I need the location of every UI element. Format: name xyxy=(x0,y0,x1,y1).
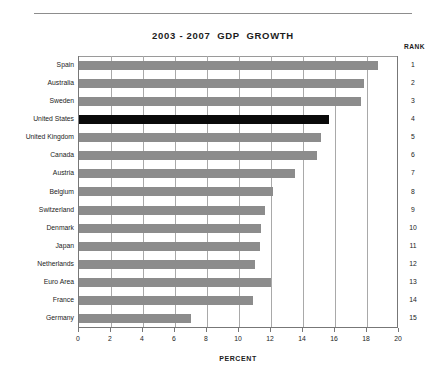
x-tick xyxy=(398,328,399,332)
bar-highlighted[interactable] xyxy=(79,115,329,124)
category-label: France xyxy=(0,297,74,304)
x-tick-label: 20 xyxy=(386,336,410,343)
bar[interactable] xyxy=(79,278,271,287)
rank-values: 123456789101112131415 xyxy=(404,56,434,328)
rank-label: 14 xyxy=(404,297,422,304)
rank-label: 15 xyxy=(404,315,422,322)
bar-row[interactable] xyxy=(79,237,397,255)
bar-row[interactable] xyxy=(79,183,397,201)
category-label: Netherlands xyxy=(0,261,74,268)
rank-label: 4 xyxy=(404,116,422,123)
x-axis-tick-labels: 02468101214161820 xyxy=(0,336,446,348)
x-tick xyxy=(238,328,239,332)
chart-title: 2003 - 2007 GDP GROWTH xyxy=(0,30,446,41)
category-label: Spain xyxy=(0,62,74,69)
plot-area xyxy=(78,56,398,328)
rank-label: 5 xyxy=(404,134,422,141)
x-tick-label: 14 xyxy=(290,336,314,343)
bar-row[interactable] xyxy=(79,219,397,237)
bar[interactable] xyxy=(79,79,364,88)
rank-label: 11 xyxy=(404,243,422,250)
x-tick-label: 8 xyxy=(194,336,218,343)
category-label: Austria xyxy=(0,170,74,177)
rank-label: 10 xyxy=(404,225,422,232)
category-label: Belgium xyxy=(0,189,74,196)
x-tick xyxy=(206,328,207,332)
rank-label: 3 xyxy=(404,98,422,105)
bar-row[interactable] xyxy=(79,292,397,310)
bar[interactable] xyxy=(79,314,191,323)
category-label: Denmark xyxy=(0,225,74,232)
rank-label: 9 xyxy=(404,207,422,214)
bar[interactable] xyxy=(79,260,255,269)
bar-row[interactable] xyxy=(79,165,397,183)
x-tick-label: 6 xyxy=(162,336,186,343)
rank-label: 2 xyxy=(404,80,422,87)
category-label: Euro Area xyxy=(0,279,74,286)
bar-row[interactable] xyxy=(79,74,397,92)
top-divider-rule xyxy=(34,13,412,14)
rank-label: 1 xyxy=(404,62,422,69)
x-tick-label: 12 xyxy=(258,336,282,343)
x-tick-label: 18 xyxy=(354,336,378,343)
bar-row[interactable] xyxy=(79,310,397,328)
x-tick xyxy=(334,328,335,332)
x-tick-label: 2 xyxy=(98,336,122,343)
bar-row[interactable] xyxy=(79,274,397,292)
bar[interactable] xyxy=(79,151,317,160)
x-tick xyxy=(78,328,79,332)
category-label: Sweden xyxy=(0,98,74,105)
x-tick xyxy=(110,328,111,332)
category-label: Canada xyxy=(0,152,74,159)
category-label: Japan xyxy=(0,243,74,250)
rank-label: 12 xyxy=(404,261,422,268)
bar[interactable] xyxy=(79,133,321,142)
x-axis-ticks xyxy=(78,328,398,334)
rank-label: 8 xyxy=(404,189,422,196)
category-label: United States xyxy=(0,116,74,123)
bar[interactable] xyxy=(79,61,378,70)
bar-rows xyxy=(79,56,397,327)
x-tick xyxy=(174,328,175,332)
category-label: Germany xyxy=(0,315,74,322)
bar-row[interactable] xyxy=(79,201,397,219)
x-tick-label: 16 xyxy=(322,336,346,343)
bar[interactable] xyxy=(79,187,273,196)
category-axis-labels: SpainAustraliaSwedenUnited StatesUnited … xyxy=(0,56,74,328)
bar-row[interactable] xyxy=(79,147,397,165)
x-tick-label: 4 xyxy=(130,336,154,343)
bar-row[interactable] xyxy=(79,255,397,273)
x-tick xyxy=(366,328,367,332)
bar[interactable] xyxy=(79,242,260,251)
x-tick xyxy=(142,328,143,332)
x-tick-label: 10 xyxy=(226,336,250,343)
x-tick-label: 0 xyxy=(66,336,90,343)
bar[interactable] xyxy=(79,97,361,106)
bar-row[interactable] xyxy=(79,56,397,74)
rank-label: 13 xyxy=(404,279,422,286)
bar[interactable] xyxy=(79,206,265,215)
rank-column-header: RANK xyxy=(404,43,425,50)
x-axis-title: PERCENT xyxy=(78,355,398,362)
bar[interactable] xyxy=(79,224,261,233)
bar-row[interactable] xyxy=(79,129,397,147)
category-label: Australia xyxy=(0,80,74,87)
x-tick xyxy=(270,328,271,332)
bar[interactable] xyxy=(79,296,253,305)
bar-row[interactable] xyxy=(79,110,397,128)
x-tick xyxy=(302,328,303,332)
rank-label: 7 xyxy=(404,170,422,177)
category-label: United Kingdom xyxy=(0,134,74,141)
rank-label: 6 xyxy=(404,152,422,159)
category-label: Switzerland xyxy=(0,207,74,214)
bar-row[interactable] xyxy=(79,92,397,110)
bar[interactable] xyxy=(79,169,295,178)
